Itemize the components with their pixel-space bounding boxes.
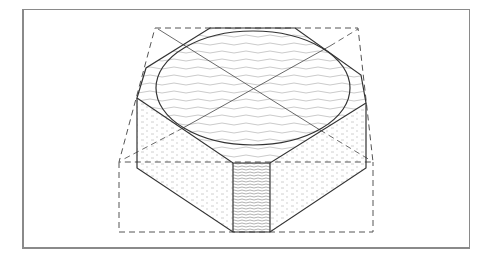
front-face <box>233 163 270 232</box>
hex-prism-drawing <box>0 0 489 253</box>
